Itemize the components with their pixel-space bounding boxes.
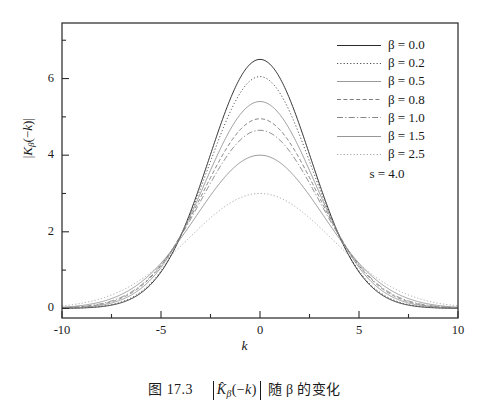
y-axis-title-text: |Kβ(−k)| <box>20 118 35 158</box>
legend-label: β = 1.5 <box>382 128 425 144</box>
x-axis-title-text: k <box>242 338 248 353</box>
x-tick-label-0: 0 <box>235 323 285 338</box>
figure-page: 0 2 4 6 -10 -5 0 5 10 k |Kβ(−k)| β = 0.0… <box>0 0 489 420</box>
legend: β = 0.0β = 0.2β = 0.5β = 0.8β = 1.0β = 1… <box>336 36 454 182</box>
legend-label: β = 0.0 <box>382 37 425 53</box>
legend-row: β = 2.5 <box>336 145 454 163</box>
legend-row: β = 0.8 <box>336 91 454 109</box>
legend-row: β = 1.0 <box>336 109 454 127</box>
y-tick-label-0: 0 <box>20 300 54 315</box>
legend-row: β = 0.5 <box>336 72 454 90</box>
legend-label: β = 1.0 <box>382 110 425 126</box>
caption-suffix: 随 β 的变化 <box>268 382 341 397</box>
x-axis-title: k <box>0 338 489 354</box>
x-tick-label-5: 5 <box>334 323 384 338</box>
legend-line-sample <box>336 94 382 105</box>
legend-line-sample <box>336 76 382 87</box>
legend-label: β = 2.5 <box>382 146 425 162</box>
legend-row: β = 1.5 <box>336 127 454 145</box>
legend-label: β = 0.5 <box>382 73 425 89</box>
legend-label: β = 0.2 <box>382 55 425 71</box>
legend-rows: β = 0.0β = 0.2β = 0.5β = 0.8β = 1.0β = 1… <box>336 36 454 163</box>
legend-line-sample <box>336 40 382 51</box>
chart-figure: 0 2 4 6 -10 -5 0 5 10 k |Kβ(−k)| β = 0.0… <box>0 0 489 368</box>
legend-line-sample <box>336 58 382 69</box>
x-tick-label-neg5: -5 <box>136 323 186 338</box>
y-tick-label-2: 2 <box>20 224 54 239</box>
legend-line-sample <box>336 112 382 123</box>
legend-line-sample <box>336 149 382 160</box>
y-tick-label-6: 6 <box>20 71 54 86</box>
x-tick-label-10: 10 <box>433 323 483 338</box>
legend-row: β = 0.0 <box>336 36 454 54</box>
legend-note: s = 4.0 <box>336 163 454 182</box>
x-tick-label-neg10: -10 <box>37 323 87 338</box>
caption-figure-number: 图 17.3 <box>148 382 192 397</box>
legend-label: β = 0.8 <box>382 92 425 108</box>
caption-formula: K̂β(−k) <box>213 381 261 400</box>
legend-line-sample <box>336 131 382 142</box>
legend-row: β = 0.2 <box>336 54 454 72</box>
figure-caption: 图 17.3 K̂β(−k) 随 β 的变化 <box>0 378 489 400</box>
y-axis-title: |Kβ(−k)| <box>20 118 37 158</box>
